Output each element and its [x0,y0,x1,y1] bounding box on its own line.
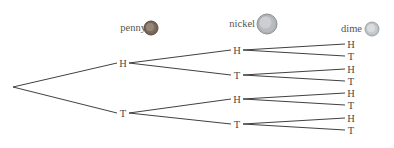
dime-node-tails-1: T [348,51,355,62]
nickel-branch-2 [129,99,231,113]
nickel-coin-icon [257,14,277,34]
penny-branch-0 [13,63,117,87]
nickel-node-tails-3: T [234,119,241,130]
penny-node-heads-0: H [119,58,127,69]
dime-branch-1 [243,50,345,56]
nickel-node-heads-2: H [233,94,241,105]
nickel-header: nickel [229,14,277,34]
dime-branch-5 [243,99,345,105]
dime-node-heads-4: H [347,88,355,99]
dime-node-heads-6: H [347,113,355,124]
dime-branch-6 [243,118,345,124]
dime-branch-2 [243,69,345,75]
nickel-node-heads-0: H [233,45,241,56]
tree-nodes: HTHTHTHTHTHTHT [119,39,355,136]
dime-branch-4 [243,93,345,99]
dime-label: dime [341,23,362,34]
dime-branch-7 [243,124,345,130]
penny-label: penny [120,22,146,33]
dime-node-heads-0: H [347,39,355,50]
dime-node-tails-7: T [348,125,355,136]
nickel-node-tails-1: T [234,70,241,81]
penny-node-tails-1: T [120,108,127,119]
penny-coin-icon [144,21,158,35]
tree-branches [13,44,345,130]
dime-branch-3 [243,75,345,81]
coin-toss-tree-diagram: HTHTHTHTHTHTHT penny nickel dime [0,0,394,148]
nickel-branch-3 [129,113,231,124]
dime-node-tails-5: T [348,100,355,111]
dime-header: dime [341,22,379,36]
penny-branch-1 [13,87,117,113]
coin-headers: penny nickel dime [120,14,379,36]
dime-node-heads-2: H [347,64,355,75]
dime-coin-icon [365,22,379,36]
penny-header: penny [120,21,158,35]
dime-branch-0 [243,44,345,50]
nickel-branch-1 [129,63,231,75]
nickel-branch-0 [129,50,231,63]
dime-node-tails-3: T [348,76,355,87]
nickel-label: nickel [229,18,255,29]
